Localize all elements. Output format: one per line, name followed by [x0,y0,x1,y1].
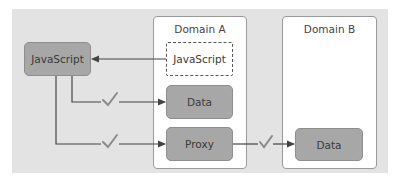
diagram-canvas: Domain A Domain B JavaScript JavaScript … [0,0,399,180]
connector-lines [0,0,399,180]
check-icon [103,135,117,147]
edge-js-to-data-a [72,76,165,105]
check-icon [260,136,272,147]
edge-proxy-to-data-b [233,136,294,147]
check-icon [103,93,117,105]
